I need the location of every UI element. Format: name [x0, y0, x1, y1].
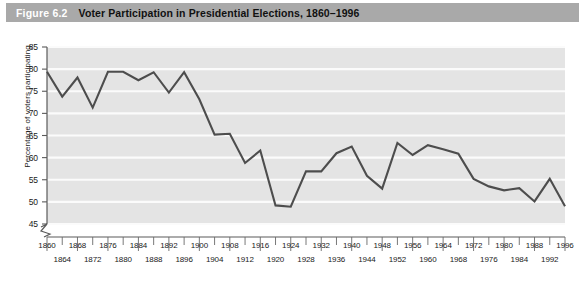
x-axis-tick-label: 1880	[110, 255, 136, 264]
x-axis-tick-label: 1888	[141, 255, 167, 264]
y-axis-tick-label: 50	[18, 197, 38, 207]
y-axis-ticks	[42, 47, 47, 224]
x-axis-tick-label: 1968	[445, 255, 471, 264]
x-axis-tick-label: 1956	[400, 241, 426, 250]
x-axis-tick-label: 1900	[186, 241, 212, 250]
x-axis-tick-label: 1940	[339, 241, 365, 250]
x-axis-tick-label: 1988	[522, 241, 548, 250]
x-axis-tick-label: 1860	[34, 241, 60, 250]
x-axis-tick-label: 1980	[491, 241, 517, 250]
x-axis-tick-label: 1984	[506, 255, 532, 264]
chart-area: Percentage of voters participating 85807…	[0, 22, 585, 283]
x-axis-tick-label: 1892	[156, 241, 182, 250]
x-axis-tick-label: 1952	[384, 255, 410, 264]
x-axis-tick-label: 1868	[64, 241, 90, 250]
y-axis-tick-label: 80	[18, 64, 38, 74]
x-axis-tick-label: 1920	[263, 255, 289, 264]
figure-container: Figure 6.2 Voter Participation in Presid…	[0, 0, 585, 283]
x-axis-tick-label: 1904	[202, 255, 228, 264]
y-axis-tick-label: 70	[18, 108, 38, 118]
y-axis-tick-label: 60	[18, 153, 38, 163]
x-axis-tick-label: 1936	[323, 255, 349, 264]
x-axis-tick-label: 1912	[232, 255, 258, 264]
x-axis-tick-label: 1872	[80, 255, 106, 264]
x-axis-tick-label: 1916	[247, 241, 273, 250]
axis-break-icon	[41, 224, 50, 237]
x-axis-tick-label: 1864	[49, 255, 75, 264]
x-axis-tick-label: 1964	[430, 241, 456, 250]
y-axis-tick-label: 75	[18, 86, 38, 96]
y-axis-tick-label: 65	[18, 131, 38, 141]
x-axis-tick-label: 1972	[461, 241, 487, 250]
x-axis-tick-label: 1976	[476, 255, 502, 264]
figure-title: Voter Participation in Presidential Elec…	[79, 7, 360, 19]
x-axis-tick-label: 1992	[537, 255, 563, 264]
figure-title-bar: Figure 6.2 Voter Participation in Presid…	[6, 3, 579, 22]
x-axis-tick-label: 1884	[125, 241, 151, 250]
y-axis-tick-label: 55	[18, 175, 38, 185]
x-axis-tick-label: 1924	[278, 241, 304, 250]
x-axis-tick-label: 1932	[308, 241, 334, 250]
x-axis-tick-label: 1908	[217, 241, 243, 250]
x-axis-tick-label: 1944	[354, 255, 380, 264]
x-axis-tick-label: 1948	[369, 241, 395, 250]
x-axis-tick-label: 1896	[171, 255, 197, 264]
x-axis-tick-label: 1960	[415, 255, 441, 264]
x-axis-tick-label: 1876	[95, 241, 121, 250]
x-axis-tick-label: 1996	[552, 241, 578, 250]
y-axis-tick-label: 45	[18, 219, 38, 229]
y-axis-tick-label: 85	[18, 42, 38, 52]
x-axis-tick-label: 1928	[293, 255, 319, 264]
